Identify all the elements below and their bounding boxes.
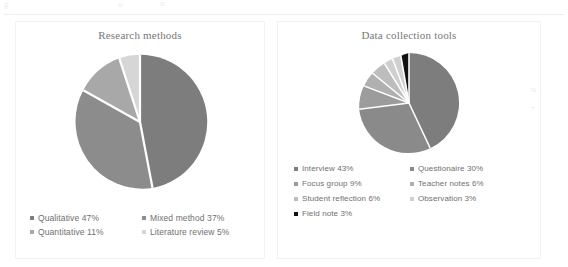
legend-label-student-reflection: Student reflection 6% bbox=[302, 195, 380, 203]
pie-wrap-data-collection-tools bbox=[278, 51, 540, 155]
legend-swatch-icon-teacher-notes bbox=[410, 182, 414, 186]
chart-card-data-collection-tools: Data collection tools bbox=[277, 21, 541, 259]
legend-swatch-icon-mixed-method bbox=[142, 216, 146, 220]
pie-slice-qualitative bbox=[140, 55, 207, 188]
margin-speckle-1: % bbox=[530, 86, 536, 94]
legend-item-questionaire[interactable]: Questionaire 30% bbox=[410, 165, 524, 173]
legend-swatch-icon-field-note bbox=[294, 212, 298, 216]
chart-title-data-collection-tools: Data collection tools bbox=[278, 29, 540, 41]
legend-label-questionaire: Questionaire 30% bbox=[418, 165, 483, 173]
legend-item-teacher-notes[interactable]: Teacher notes 6% bbox=[410, 180, 524, 188]
legend-label-qualitative: Qualitative 47% bbox=[38, 214, 99, 223]
scan-artifact-b: o bbox=[118, 0, 123, 9]
pie-svg-research-methods bbox=[70, 52, 210, 192]
page-top-scan-artifacts: g o n bbox=[0, 0, 568, 14]
legend-item-observation[interactable]: Observation 3% bbox=[410, 195, 524, 203]
legend-item-interview[interactable]: Interview 43% bbox=[294, 165, 408, 173]
legend-item-field-note[interactable]: Field note 3% bbox=[294, 210, 408, 218]
legend-item-qualitative[interactable]: Qualitative 47% bbox=[30, 214, 138, 223]
legend-label-teacher-notes: Teacher notes 6% bbox=[418, 180, 484, 188]
legend-swatch-icon-literature-review bbox=[142, 230, 146, 234]
legend-swatch-icon-interview bbox=[294, 167, 298, 171]
legend-swatch-icon-focus-group bbox=[294, 182, 298, 186]
legend-research-methods: Qualitative 47% Mixed method 37% Quantit… bbox=[16, 214, 264, 236]
scan-artifact-c: n bbox=[160, 0, 165, 8]
pie-svg-data-collection-tools bbox=[357, 51, 461, 155]
scan-artifact-a: g bbox=[4, 0, 9, 9]
legend-label-quantitative: Quantitative 11% bbox=[38, 228, 104, 237]
legend-label-literature-review: Literature review 5% bbox=[150, 228, 229, 237]
legend-swatch-icon-student-reflection bbox=[294, 197, 298, 201]
charts-row: Research methods bbox=[15, 21, 553, 259]
legend-swatch-icon-quantitative bbox=[30, 230, 34, 234]
legend-item-focus-group[interactable]: Focus group 9% bbox=[294, 180, 408, 188]
pie-chart-data-collection-tools bbox=[357, 51, 461, 155]
legend-item-literature-review[interactable]: Literature review 5% bbox=[142, 228, 250, 237]
legend-label-observation: Observation 3% bbox=[418, 195, 476, 203]
pie-chart-research-methods bbox=[70, 52, 210, 192]
legend-item-quantitative[interactable]: Quantitative 11% bbox=[30, 228, 138, 237]
legend-data-collection-tools: Interview 43% Questionaire 30% Focus gro… bbox=[278, 165, 540, 218]
legend-item-student-reflection[interactable]: Student reflection 6% bbox=[294, 195, 408, 203]
page-horizontal-rule bbox=[4, 14, 564, 15]
legend-label-interview: Interview 43% bbox=[302, 165, 354, 173]
legend-label-mixed-method: Mixed method 37% bbox=[150, 214, 224, 223]
legend-swatch-icon-observation bbox=[410, 197, 414, 201]
margin-speckle-2: + bbox=[531, 104, 535, 112]
pie-wrap-research-methods bbox=[16, 52, 264, 192]
legend-label-focus-group: Focus group 9% bbox=[302, 180, 362, 188]
legend-label-field-note: Field note 3% bbox=[302, 210, 352, 218]
chart-card-research-methods: Research methods bbox=[15, 21, 265, 259]
legend-item-mixed-method[interactable]: Mixed method 37% bbox=[142, 214, 250, 223]
chart-title-research-methods: Research methods bbox=[16, 29, 264, 41]
legend-swatch-icon-qualitative bbox=[30, 216, 34, 220]
legend-swatch-icon-questionaire bbox=[410, 167, 414, 171]
